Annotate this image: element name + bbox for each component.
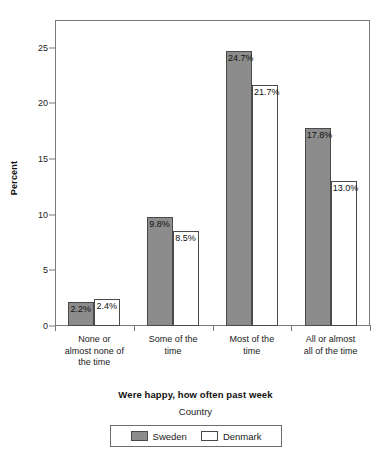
- x-tick-mark: [370, 326, 371, 331]
- plot-area: [55, 20, 370, 326]
- x-tick-mark: [213, 326, 214, 331]
- y-tick-mark: [49, 159, 55, 160]
- x-tick-mark: [55, 326, 56, 331]
- legend-label-denmark: Denmark: [223, 431, 262, 442]
- x-tick-mark: [134, 326, 135, 331]
- y-tick-label: 0: [0, 321, 48, 331]
- y-tick-label: 20: [0, 98, 48, 108]
- x-category-label-2: Most of thetime: [213, 334, 292, 357]
- legend-entry-sweden: Sweden: [131, 431, 187, 442]
- filled-gray-swatch-icon: [131, 431, 148, 441]
- y-tick-label: 5: [0, 265, 48, 275]
- y-tick-mark: [49, 270, 55, 271]
- outlined-white-swatch-icon: [201, 431, 218, 441]
- y-tick-label: 15: [0, 154, 48, 164]
- y-tick-label: 25: [0, 43, 48, 53]
- y-tick-mark: [49, 214, 55, 215]
- y-tick-mark: [49, 47, 55, 48]
- legend-entry-denmark: Denmark: [201, 431, 262, 442]
- bar-chart: Percent 0510152025 2.2%2.4%9.8%8.5%24.7%…: [0, 0, 391, 465]
- x-axis-title: Were happy, how often past week: [0, 389, 391, 400]
- legend-title: Country: [0, 406, 391, 417]
- x-category-label-1: Some of thetime: [134, 334, 213, 357]
- legend-label-sweden: Sweden: [153, 431, 187, 442]
- y-tick-label: 10: [0, 210, 48, 220]
- y-tick-mark: [49, 103, 55, 104]
- x-category-label-3: All or almostall of the time: [291, 334, 370, 357]
- legend: Sweden Denmark: [110, 425, 282, 447]
- y-axis-line: [55, 20, 56, 326]
- x-category-label-0: None oralmost none ofthe time: [55, 334, 134, 369]
- x-tick-mark: [291, 326, 292, 331]
